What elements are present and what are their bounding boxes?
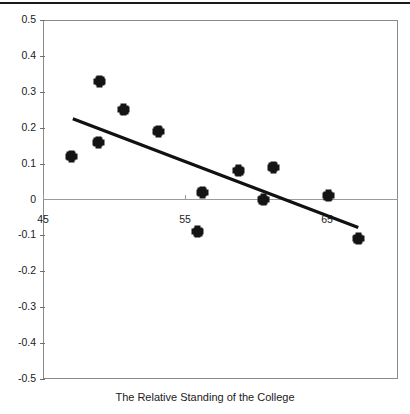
data-point [269, 163, 278, 172]
zero-baseline [43, 199, 398, 200]
data-point [94, 138, 103, 147]
x-tick-label: 65 [315, 214, 339, 225]
data-point [259, 195, 268, 204]
y-tick-label: 0.2 [2, 122, 36, 133]
y-tick-label: 0.5 [2, 14, 36, 25]
y-tick-mark [40, 20, 45, 21]
data-point [67, 152, 76, 161]
x-axis-title: The Relative Standing of the College [0, 391, 410, 403]
scatter-plot-figure: 0.50.40.30.20.10-0.1-0.2-0.3-0.4-0.5 455… [0, 0, 410, 414]
y-tick-label: -0.1 [2, 229, 36, 240]
data-point [154, 127, 163, 136]
data-point [198, 188, 207, 197]
y-tick-label: 0.4 [2, 50, 36, 61]
y-tick-label: -0.5 [2, 373, 36, 384]
data-point [354, 234, 363, 243]
y-tick-mark [40, 235, 45, 236]
y-tick-label: -0.2 [2, 265, 36, 276]
y-tick-mark [40, 128, 45, 129]
data-point [193, 227, 202, 236]
data-point [119, 105, 128, 114]
y-tick-mark [40, 56, 45, 57]
y-tick-label: -0.3 [2, 301, 36, 312]
x-tick-mark [43, 195, 44, 200]
data-point [324, 191, 333, 200]
y-tick-label: -0.4 [2, 337, 36, 348]
y-tick-mark [40, 307, 45, 308]
y-tick-label: 0.3 [2, 86, 36, 97]
x-tick-label: 55 [173, 214, 197, 225]
y-tick-label: 0 [2, 194, 36, 205]
y-tick-mark [40, 379, 45, 380]
data-point [95, 77, 104, 86]
y-tick-label: 0.1 [2, 158, 36, 169]
y-tick-mark [40, 271, 45, 272]
y-tick-mark [40, 92, 45, 93]
y-tick-mark [40, 164, 45, 165]
x-tick-mark [185, 195, 186, 200]
top-rule-divider [0, 2, 410, 4]
y-tick-mark [40, 343, 45, 344]
data-point [234, 166, 243, 175]
x-tick-label: 45 [31, 214, 55, 225]
